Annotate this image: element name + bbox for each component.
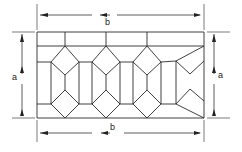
dimension-label-a-right: a [218, 70, 223, 80]
dimension-left-a: a [12, 34, 24, 116]
arrow-up-icon [212, 66, 216, 73]
dimension-label-b-bottom: b [110, 122, 115, 132]
extension-lines [12, 4, 230, 142]
arrow-left-icon [101, 131, 108, 135]
tile-unit-2 [92, 46, 133, 118]
tiling-panel [37, 32, 204, 118]
dimension-bottom-b: b [40, 122, 201, 135]
tile-right-end [161, 46, 204, 118]
arrow-up-icon [212, 34, 216, 42]
arrow-left-icon [40, 131, 48, 135]
arrow-up-icon [20, 109, 24, 116]
dimension-top-b: b [40, 13, 201, 27]
tile-unit-3 [133, 46, 161, 118]
tiling-diagram: b b a a [0, 0, 242, 152]
dimension-label-b-top: b [105, 17, 110, 27]
arrow-up-icon [20, 66, 24, 73]
arrow-up-icon [20, 34, 24, 42]
arrow-right-icon [194, 131, 201, 135]
dimension-right-a: a [212, 34, 223, 116]
arrow-up-icon [212, 109, 216, 116]
arrow-left-icon [40, 13, 48, 17]
arrow-right-icon [194, 13, 201, 17]
dimension-label-a-left: a [12, 72, 17, 82]
tile-unit-1 [51, 46, 93, 118]
